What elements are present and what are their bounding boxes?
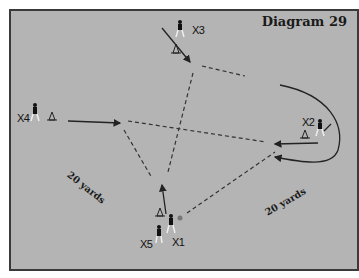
player-figure-x2 <box>316 119 331 136</box>
run-line-x1 <box>162 185 166 214</box>
pass-x3-down <box>168 73 193 172</box>
pass-x1-x2 <box>187 152 275 213</box>
player-label-x1: X1 <box>172 236 184 248</box>
ball-icon <box>178 216 183 221</box>
player-figure-x5 <box>156 225 162 243</box>
player-label-x5: X5 <box>140 238 152 250</box>
player-figure-x1 <box>167 214 175 233</box>
diagram-title: Diagram 29 <box>262 14 347 29</box>
player-label-x2: X2 <box>302 116 314 128</box>
player-label-x3: X3 <box>192 24 204 36</box>
pass-lines <box>124 66 275 213</box>
run-line-x4 <box>68 121 120 123</box>
pass-x4-x2 <box>128 121 266 142</box>
pass-x3-right <box>202 66 245 76</box>
player-figure-x4 <box>31 103 39 121</box>
pass-left-down <box>124 130 152 178</box>
player-label-x4: X4 <box>17 112 29 124</box>
player-figure-x3 <box>176 20 184 37</box>
